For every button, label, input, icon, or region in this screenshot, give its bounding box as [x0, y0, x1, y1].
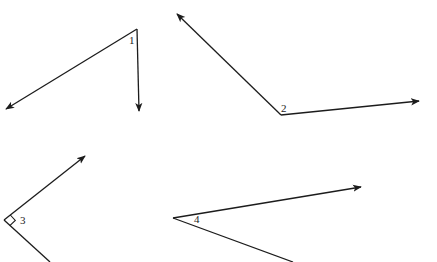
angles-diagram: 1 2 3 4	[0, 0, 437, 262]
angle-2-ray-right	[281, 101, 419, 115]
right-angle-marker	[10, 215, 16, 226]
angle-1-ray-down	[137, 29, 139, 111]
angle-3-label: 3	[20, 214, 26, 226]
angle-3-ray-upright	[4, 156, 85, 220]
angle-4-ray-downright	[173, 218, 293, 262]
angle-1-ray-left	[6, 29, 137, 109]
angle-1-label: 1	[129, 34, 135, 46]
angle-2-ray-upleft	[177, 14, 281, 115]
angle-3-ray-downright	[4, 220, 50, 262]
angle-3: 3	[4, 156, 85, 262]
angle-4: 4	[173, 187, 361, 262]
angle-2: 2	[177, 14, 419, 115]
angle-4-label: 4	[194, 213, 200, 225]
angle-4-ray-upright	[173, 187, 361, 218]
angle-1: 1	[6, 29, 139, 111]
angle-2-label: 2	[281, 102, 287, 114]
